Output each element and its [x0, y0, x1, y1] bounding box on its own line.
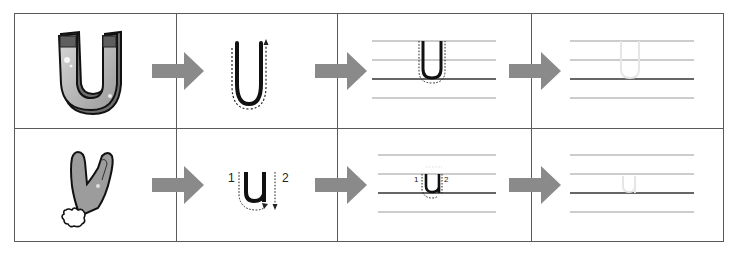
stroke-number-1: 1: [228, 171, 235, 185]
magnet-icon: [55, 28, 125, 116]
arrow-right-icon: [509, 166, 561, 204]
trace-lowercase-u-with-direction: 1 2: [226, 166, 298, 214]
stroke-number-1: 1: [414, 175, 419, 184]
arrow-right-icon: [152, 166, 204, 204]
trace-uppercase-u-with-direction: [228, 38, 270, 110]
arrow-right-icon: [315, 52, 367, 90]
column-divider-3: [531, 14, 532, 241]
guide-lines-trace-uppercase: [372, 38, 498, 102]
arrow-right-icon: [315, 166, 367, 204]
stroke-number-2: 2: [444, 175, 449, 184]
stroke-number-2: 2: [282, 171, 289, 185]
row-divider: [15, 128, 723, 129]
guide-lines-trace-lowercase: 1 2: [378, 152, 500, 216]
glove-icon: [58, 150, 122, 230]
arrow-right-icon: [509, 52, 561, 90]
guide-lines-write-lowercase: [570, 152, 696, 216]
guide-lines-write-uppercase: [570, 38, 696, 102]
column-divider-1: [176, 14, 177, 241]
arrow-right-icon: [152, 52, 204, 90]
column-divider-2: [337, 14, 338, 241]
